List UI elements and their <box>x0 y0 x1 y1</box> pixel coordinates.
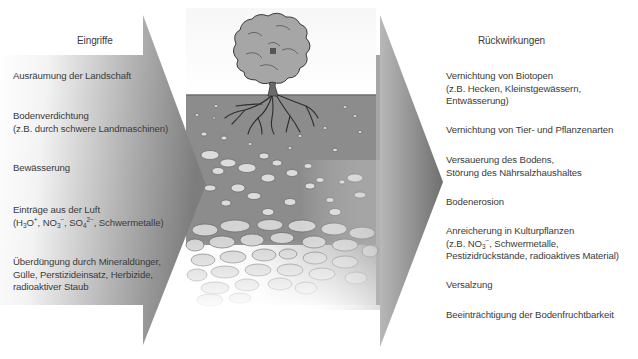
right-item-3-line-1: Versauerung des Bodens, <box>446 154 582 167</box>
right-item-1-line-2: (z.B. Hecken, Kleinstgewässern, <box>446 83 581 96</box>
left-item-2-line-1: Bodenverdichtung <box>13 110 168 123</box>
right-item-3-line-2: Störung des Nährsalzhaushaltes <box>446 167 582 180</box>
left-item-1-line: Ausräumung der Landschaft <box>13 70 131 83</box>
left-item-4: Einträge aus der Luft (H3O+, NO3−, SO42−… <box>13 204 164 229</box>
left-item-3: Bewässerung <box>13 162 70 175</box>
left-item-5: Überdüngung durch Mineraldünger, Gülle, … <box>13 256 161 294</box>
arrows-background <box>0 0 638 359</box>
right-item-3: Versauerung des Bodens, Störung des Nähr… <box>446 154 582 179</box>
right-item-1: Vernichtung von Biotopen (z.B. Hecken, K… <box>446 70 581 108</box>
right-item-5: Anreicherung in Kulturpflanzen (z.B. NO3… <box>446 225 619 263</box>
right-item-7: Beeinträchtigung der Bodenfruchtbarkeit <box>446 309 614 322</box>
right-item-4-line: Bodenerosion <box>446 196 504 209</box>
right-item-1-line-3: Entwässerung) <box>446 95 581 108</box>
left-item-1: Ausräumung der Landschaft <box>13 70 131 83</box>
left-item-2: Bodenverdichtung (z.B. durch schwere Lan… <box>13 110 168 135</box>
soil-illustration <box>186 8 380 312</box>
right-item-4: Bodenerosion <box>446 196 504 209</box>
right-item-2-line: Vernichtung von Tier- und Pflanzenarten <box>446 124 613 137</box>
right-item-5-line-3: Pestizidrückstände, radioaktives Materia… <box>446 250 619 263</box>
right-item-5-formula: (z.B. NO3−, Schwermetalle, <box>446 238 619 251</box>
left-item-5-line-2: Gülle, Perstizideinsatz, Herbizide, <box>13 269 161 282</box>
right-arrow-head <box>380 15 443 347</box>
right-item-6-line: Versalzung <box>446 279 492 292</box>
left-header: Eingriffe <box>77 35 113 48</box>
right-item-1-line-1: Vernichtung von Biotopen <box>446 70 581 83</box>
right-item-6: Versalzung <box>446 279 492 292</box>
right-item-5-line-1: Anreicherung in Kulturpflanzen <box>446 225 619 238</box>
left-arrow <box>0 15 206 345</box>
right-item-7-line: Beeinträchtigung der Bodenfruchtbarkeit <box>446 309 614 322</box>
right-header: Rückwirkungen <box>478 35 545 48</box>
left-item-5-line-3: radioaktiver Staub <box>13 281 161 294</box>
right-item-2: Vernichtung von Tier- und Pflanzenarten <box>446 124 613 137</box>
left-item-3-line: Bewässerung <box>13 162 70 175</box>
left-item-4-formula: (H3O+, NO3−, SO42−, Schwermetalle) <box>13 217 164 230</box>
left-item-5-line-1: Überdüngung durch Mineraldünger, <box>13 256 161 269</box>
left-item-2-line-2: (z.B. durch schwere Landmaschinen) <box>13 123 168 136</box>
